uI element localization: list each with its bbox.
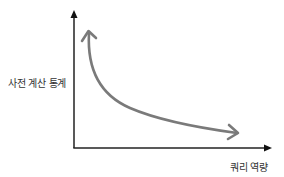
tradeoff-curve: [89, 33, 237, 133]
y-axis-arrowhead-icon: [71, 10, 78, 18]
y-axis-label: 사전 계산 통계: [8, 75, 66, 90]
x-axis-arrowhead-icon: [264, 145, 272, 152]
x-axis-label: 쿼리 역량: [230, 159, 268, 174]
